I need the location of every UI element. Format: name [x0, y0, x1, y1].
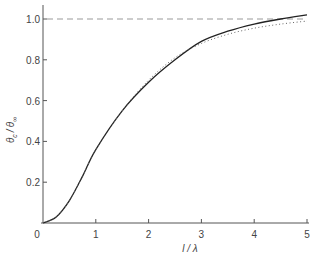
y-label-sub-inf: ∞: [11, 117, 18, 122]
axes: [41, 5, 309, 223]
svg-text:θc/θ∞: θc/θ∞: [5, 117, 18, 143]
y-axis-label: θc/θ∞: [5, 117, 18, 143]
x-tick-label: 1: [93, 229, 99, 240]
y-tick-label: 0.8: [26, 55, 40, 66]
x-tick-label: 2: [146, 229, 152, 240]
origin-label: 0: [34, 229, 40, 240]
series-dotted-line: [43, 21, 307, 223]
y-label-slash: /: [5, 128, 16, 133]
x-tick-label: 3: [199, 229, 205, 240]
series-group: [43, 15, 307, 223]
x-tick-label: 4: [251, 229, 257, 240]
x-tick-label: 5: [304, 229, 310, 240]
y-tick-label: 0.6: [26, 96, 40, 107]
chart: 12345 0.20.40.60.81.0 0 l / λ θc/θ∞: [0, 0, 313, 264]
y-ticks: 0.20.40.60.81.0: [26, 14, 47, 188]
y-tick-label: 0.2: [26, 177, 40, 188]
y-tick-label: 0.4: [26, 136, 40, 147]
y-label-sub-c: c: [11, 134, 18, 138]
series-solid-line: [43, 15, 307, 223]
x-axis-label: l / λ: [182, 243, 198, 254]
y-tick-label: 1.0: [26, 14, 40, 25]
x-ticks: 12345: [93, 219, 310, 240]
